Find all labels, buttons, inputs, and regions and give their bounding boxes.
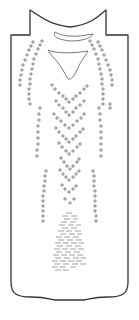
cross-mark-icon [98, 44, 102, 48]
cross-group-chevron-8 [60, 183, 78, 194]
cross-mark-icon [61, 94, 65, 98]
cross-mark-icon [93, 209, 97, 213]
cross-mark-icon [23, 58, 27, 62]
cross-mark-icon [78, 142, 82, 146]
cross-group-right-column-low [91, 169, 98, 223]
cross-mark-icon [65, 164, 69, 168]
cross-mark-icon [61, 134, 65, 138]
cross-group-right-column-mid [97, 106, 103, 158]
cross-mark-icon [71, 149, 75, 153]
cross-mark-icon [63, 123, 67, 127]
cross-mark-icon [20, 68, 24, 72]
cross-mark-icon [36, 142, 40, 146]
cross-mark-icon [19, 73, 23, 77]
cross-mark-icon [78, 103, 82, 107]
cross-mark-icon [94, 52, 98, 56]
cross-group-small-pair [63, 197, 76, 205]
cross-mark-icon [99, 148, 103, 152]
cross-mark-icon [63, 197, 67, 201]
cross-mark-icon [28, 77, 32, 81]
cross-mark-icon [99, 124, 103, 128]
cross-mark-icon [79, 116, 83, 120]
cross-mark-icon [53, 87, 57, 91]
cross-group-chevron-5 [57, 141, 82, 156]
cross-mark-icon [41, 209, 45, 213]
cross-mark-icon [64, 137, 68, 141]
cross-mark-icon [99, 154, 103, 158]
cross-mark-icon [100, 82, 104, 86]
cross-mark-icon [75, 160, 79, 164]
cross-mark-icon [75, 119, 79, 123]
cross-mark-icon [74, 184, 78, 188]
cross-mark-icon [57, 141, 61, 145]
cross-mark-icon [92, 179, 96, 183]
cross-mark-icon [28, 102, 32, 106]
cross-mark-icon [36, 130, 40, 134]
cross-mark-icon [94, 214, 98, 218]
cross-mark-icon [77, 157, 81, 161]
cross-mark-icon [77, 169, 81, 173]
cross-mark-icon [106, 63, 110, 67]
cross-mark-icon [63, 187, 67, 191]
cross-mark-icon [61, 172, 65, 176]
cross-mark-icon [71, 110, 75, 114]
cross-mark-icon [82, 112, 86, 116]
cross-mark-icon [91, 169, 95, 173]
cross-mark-icon [43, 179, 47, 183]
cross-mark-icon [32, 57, 36, 61]
cross-mark-icon [93, 189, 97, 193]
cross-mark-icon [27, 97, 31, 101]
cross-mark-icon [41, 219, 45, 223]
cross-mark-icon [85, 84, 89, 88]
cross-mark-icon [71, 97, 75, 101]
cross-mark-icon [60, 183, 64, 187]
cross-mark-icon [74, 106, 78, 110]
cross-mark-icon [67, 100, 71, 104]
cross-mark-icon [54, 126, 58, 130]
cross-mark-icon [71, 123, 75, 127]
cross-mark-icon [92, 47, 96, 51]
cross-mark-icon [31, 40, 35, 44]
cross-mark-icon [54, 99, 58, 103]
cross-mark-icon [101, 102, 105, 106]
cross-mark-icon [81, 127, 85, 131]
cross-mark-icon [41, 199, 45, 203]
garment-diagram [0, 0, 139, 320]
cross-mark-icon [102, 53, 106, 57]
cross-mark-icon [57, 91, 61, 95]
cross-mark-icon [67, 190, 71, 194]
cross-mark-icon [74, 172, 78, 176]
cross-mark-icon [71, 175, 75, 179]
cross-mark-icon [60, 145, 64, 149]
cross-mark-icon [41, 204, 45, 208]
cross-group-left-column-low [41, 169, 48, 223]
cross-mark-icon [44, 169, 48, 173]
cross-mark-icon [71, 187, 75, 191]
cross-mark-icon [110, 83, 114, 87]
cross-mark-icon [40, 39, 44, 43]
cross-mark-icon [64, 97, 68, 101]
cross-mark-icon [42, 184, 46, 188]
cross-mark-icon [62, 160, 66, 164]
cross-mark-icon [29, 72, 33, 76]
cross-mark-icon [25, 53, 29, 57]
cross-mark-icon [57, 103, 61, 107]
cross-mark-icon [108, 102, 112, 106]
cross-mark-icon [82, 99, 86, 103]
cross-mark-icon [27, 48, 31, 52]
cross-mark-icon [18, 83, 22, 87]
cross-group-chevron-6 [59, 156, 81, 171]
cross-mark-icon [37, 118, 41, 122]
cross-mark-icon [41, 214, 45, 218]
cross-mark-icon [35, 154, 39, 158]
cross-mark-icon [74, 134, 78, 138]
cross-mark-icon [99, 142, 103, 146]
cross-mark-icon [30, 67, 34, 71]
cross-mark-icon [29, 44, 33, 48]
cross-mark-icon [58, 168, 62, 172]
collar-band [54, 32, 93, 41]
cross-mark-icon [59, 156, 63, 160]
cross-mark-icon [35, 148, 39, 152]
cross-mark-icon [52, 112, 56, 116]
cross-group-left-outer-arc [18, 40, 35, 87]
